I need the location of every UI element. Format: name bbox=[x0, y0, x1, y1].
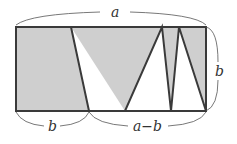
rectangle-triangle-diagram: a b b a−b bbox=[0, 0, 237, 144]
shaded-left-quad bbox=[16, 27, 89, 111]
label-b-right: b bbox=[215, 63, 224, 79]
label-b-bottom: b bbox=[48, 118, 57, 134]
label-a-top: a bbox=[111, 4, 119, 20]
label-a-minus-b: a−b bbox=[133, 118, 162, 134]
